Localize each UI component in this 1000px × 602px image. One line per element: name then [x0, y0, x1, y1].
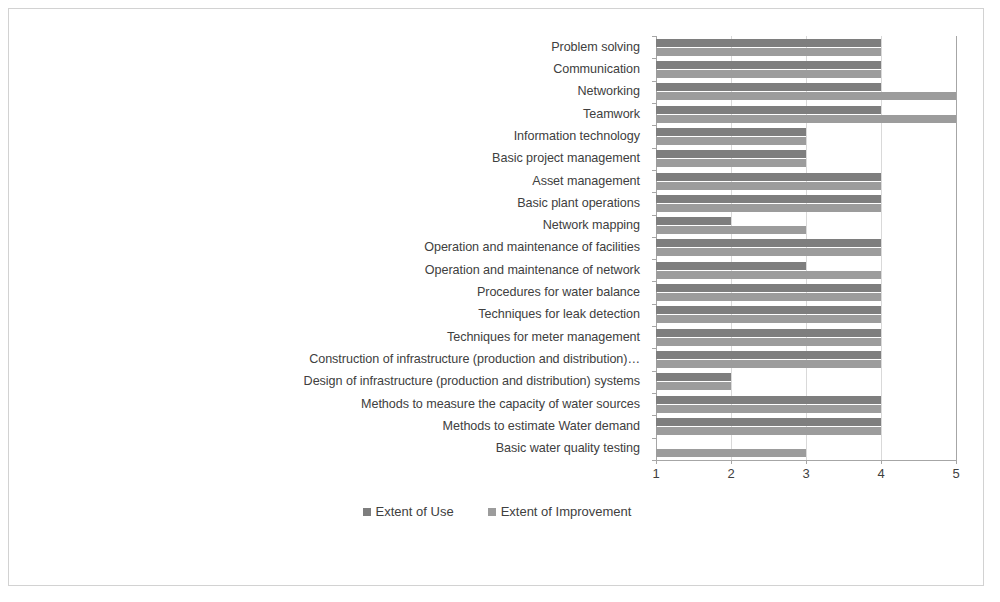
category-row: Design of infrastructure (production and…: [19, 371, 647, 393]
bar-row: [656, 103, 956, 125]
bar-extent-of-use: [656, 39, 881, 47]
category-row: Operation and maintenance of facilities: [19, 237, 647, 259]
bar-extent-of-improvement: [656, 48, 881, 56]
legend-item[interactable]: Extent of Improvement: [488, 504, 632, 519]
bar-extent-of-improvement: [656, 315, 881, 323]
bar-extent-of-improvement: [656, 70, 881, 78]
legend-item[interactable]: Extent of Use: [363, 504, 454, 519]
category-label: Problem solving: [551, 41, 640, 54]
x-axis-tick-label: 1: [652, 466, 659, 481]
bar-extent-of-improvement: [656, 427, 881, 435]
x-axis-labels: 12345: [656, 466, 956, 486]
category-row: Networking: [19, 81, 647, 103]
x-axis-tick: [956, 460, 957, 464]
bar-extent-of-use: [656, 195, 881, 203]
bar-extent-of-use: [656, 351, 881, 359]
bar-extent-of-use: [656, 217, 731, 225]
bar-extent-of-use: [656, 128, 806, 136]
bar-extent-of-improvement: [656, 405, 881, 413]
category-row: Techniques for leak detection: [19, 304, 647, 326]
bar-extent-of-improvement: [656, 449, 806, 457]
bar-extent-of-improvement: [656, 92, 956, 100]
category-label: Asset management: [532, 175, 640, 188]
bar-extent-of-improvement: [656, 382, 731, 390]
category-label: Communication: [553, 63, 640, 76]
bar-row: [656, 348, 956, 370]
legend-label: Extent of Use: [376, 504, 454, 519]
bar-extent-of-use: [656, 106, 881, 114]
category-row: Communication: [19, 58, 647, 80]
category-label: Procedures for water balance: [477, 286, 640, 299]
category-label: Basic project management: [492, 152, 640, 165]
category-row: Information technology: [19, 125, 647, 147]
category-row: Basic water quality testing: [19, 438, 647, 460]
category-row: Basic project management: [19, 148, 647, 170]
category-label: Operation and maintenance of network: [425, 264, 640, 277]
bar-extent-of-improvement: [656, 137, 806, 145]
category-label: Methods to estimate Water demand: [443, 420, 640, 433]
bar-extent-of-improvement: [656, 360, 881, 368]
chart-frame: Problem solvingCommunicationNetworkingTe…: [8, 8, 984, 586]
plot-area: [656, 36, 956, 460]
bar-extent-of-improvement: [656, 226, 806, 234]
bar-row: [656, 326, 956, 348]
bar-row: [656, 415, 956, 437]
bar-row: [656, 36, 956, 58]
category-label: Basic plant operations: [517, 197, 640, 210]
bar-row: [656, 237, 956, 259]
category-row: Problem solving: [19, 36, 647, 58]
x-axis-tick-label: 5: [952, 466, 959, 481]
category-label: Methods to measure the capacity of water…: [361, 398, 640, 411]
bar-extent-of-improvement: [656, 293, 881, 301]
bar-row: [656, 371, 956, 393]
bar-extent-of-use: [656, 61, 881, 69]
category-label: Construction of infrastructure (producti…: [309, 353, 640, 366]
bar-rows: [656, 36, 956, 460]
legend-label: Extent of Improvement: [501, 504, 632, 519]
bar-extent-of-improvement: [656, 182, 881, 190]
bar-extent-of-use: [656, 306, 881, 314]
chart-legend: Extent of UseExtent of Improvement: [9, 504, 985, 519]
category-label: Networking: [578, 85, 641, 98]
category-label: Network mapping: [543, 219, 640, 232]
legend-swatch-icon: [488, 508, 496, 516]
bar-extent-of-use: [656, 284, 881, 292]
x-axis-tick: [881, 460, 882, 464]
bar-row: [656, 259, 956, 281]
x-axis-tick-label: 3: [802, 466, 809, 481]
bar-extent-of-improvement: [656, 248, 881, 256]
bar-extent-of-use: [656, 239, 881, 247]
category-label: Basic water quality testing: [496, 442, 640, 455]
bar-extent-of-use: [656, 396, 881, 404]
bar-extent-of-use: [656, 173, 881, 181]
bar-extent-of-improvement: [656, 271, 881, 279]
category-row: Asset management: [19, 170, 647, 192]
bar-extent-of-use: [656, 418, 881, 426]
bar-row: [656, 192, 956, 214]
category-row: Teamwork: [19, 103, 647, 125]
category-row: Basic plant operations: [19, 192, 647, 214]
category-row: Operation and maintenance of network: [19, 259, 647, 281]
category-row: Techniques for meter management: [19, 326, 647, 348]
gridline: [956, 36, 957, 460]
x-axis-tick: [806, 460, 807, 464]
bar-extent-of-improvement: [656, 159, 806, 167]
category-label: Techniques for meter management: [447, 331, 640, 344]
x-axis-tick-label: 2: [727, 466, 734, 481]
bar-chart: Problem solvingCommunicationNetworkingTe…: [9, 9, 985, 587]
bar-extent-of-improvement: [656, 204, 881, 212]
x-axis-tick-label: 4: [877, 466, 884, 481]
category-label: Techniques for leak detection: [478, 308, 640, 321]
bar-row: [656, 438, 956, 460]
legend-swatch-icon: [363, 508, 371, 516]
category-label: Operation and maintenance of facilities: [424, 241, 640, 254]
bar-extent-of-improvement: [656, 338, 881, 346]
bar-extent-of-use: [656, 150, 806, 158]
category-axis-labels: Problem solvingCommunicationNetworkingTe…: [19, 36, 647, 460]
x-axis-tick: [656, 460, 657, 464]
category-label: Teamwork: [583, 108, 640, 121]
bar-extent-of-improvement: [656, 115, 956, 123]
category-row: Procedures for water balance: [19, 281, 647, 303]
category-label: Design of infrastructure (production and…: [304, 375, 640, 388]
category-row: Methods to measure the capacity of water…: [19, 393, 647, 415]
